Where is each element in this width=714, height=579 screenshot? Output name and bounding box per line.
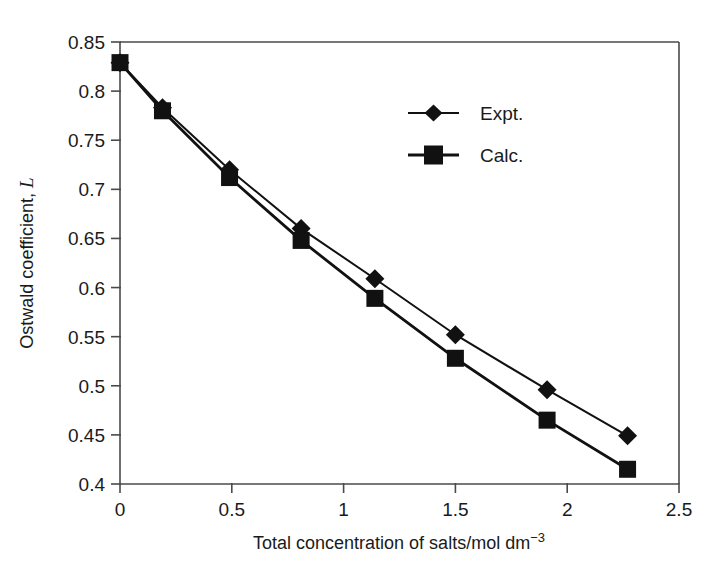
- series-line: [120, 63, 628, 436]
- x-axis-tick-labels: 00.511.522.5: [115, 499, 693, 520]
- x-axis-title-text: Total concentration of salts/mol dm: [253, 533, 530, 553]
- svg-text:Total concentration of salts/m: Total concentration of salts/mol dm−3: [253, 530, 545, 553]
- diamond-marker-icon: [446, 325, 465, 344]
- x-axis-title-exponent: −3: [530, 530, 545, 545]
- square-marker-icon: [447, 350, 464, 367]
- x-tick-label: 2: [562, 499, 573, 520]
- y-axis-title-symbol: L: [16, 177, 37, 189]
- y-tick-label: 0.6: [79, 278, 105, 299]
- legend-entry-expt[interactable]: Expt.: [408, 103, 523, 124]
- square-marker-icon: [293, 232, 310, 249]
- y-tick-label: 0.55: [68, 327, 105, 348]
- y-axis-title: Ostwald coefficient,L: [16, 177, 37, 348]
- data-series-layer: [111, 53, 638, 478]
- chart-legend: Expt. Calc.: [408, 103, 523, 166]
- x-tick-label: 2.5: [666, 499, 692, 520]
- y-axis-title-text: Ostwald coefficient,: [17, 193, 37, 349]
- square-marker-icon: [366, 290, 383, 307]
- diamond-marker-icon: [425, 105, 443, 122]
- y-tick-label: 0.65: [68, 228, 105, 249]
- y-tick-label: 0.5: [79, 376, 105, 397]
- x-tick-label: 1.5: [442, 499, 468, 520]
- y-tick-label: 0.85: [68, 32, 105, 53]
- diamond-marker-icon: [538, 380, 557, 399]
- x-tick-label: 0.5: [219, 499, 245, 520]
- legend-entry-calc[interactable]: Calc.: [408, 145, 523, 166]
- y-tick-label: 0.7: [79, 179, 105, 200]
- diamond-marker-icon: [365, 269, 384, 288]
- chart-plot-area: 0.40.450.50.550.60.650.70.750.80.85 00.5…: [0, 0, 714, 579]
- square-marker-icon: [154, 102, 171, 119]
- data-series-expt: [111, 53, 638, 445]
- data-series-calc: [112, 54, 637, 478]
- x-tick-label: 0: [115, 499, 126, 520]
- x-axis-title: Total concentration of salts/mol dm−3: [253, 530, 545, 553]
- y-tick-label: 0.45: [68, 425, 105, 446]
- square-marker-icon: [619, 461, 636, 478]
- y-axis-tick-labels: 0.40.450.50.550.60.650.70.750.80.85: [68, 32, 105, 495]
- svg-text:Ostwald coefficient,L: Ostwald coefficient,L: [16, 177, 37, 348]
- y-tick-label: 0.75: [68, 130, 105, 151]
- legend-label-expt: Expt.: [480, 103, 523, 124]
- diamond-marker-icon: [618, 426, 637, 445]
- y-tick-label: 0.8: [79, 81, 105, 102]
- chart-figure: 0.40.450.50.550.60.650.70.750.80.85 00.5…: [0, 0, 714, 579]
- legend-label-calc: Calc.: [480, 145, 523, 166]
- y-tick-label: 0.4: [79, 474, 106, 495]
- square-marker-icon: [424, 146, 443, 165]
- square-marker-icon: [539, 412, 556, 429]
- square-marker-icon: [221, 169, 238, 186]
- series-line: [120, 63, 628, 470]
- square-marker-icon: [112, 54, 129, 71]
- x-tick-label: 1: [338, 499, 349, 520]
